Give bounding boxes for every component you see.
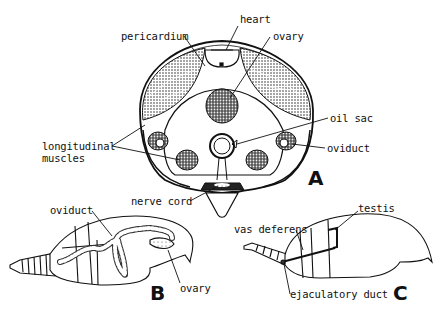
label-oviduct-b: oviduct bbox=[50, 205, 93, 216]
label-longitudinal: longitudinal bbox=[42, 141, 115, 152]
label-heart: heart bbox=[240, 14, 271, 25]
label-ovary-a: ovary bbox=[273, 31, 304, 42]
label-oil-sac: oil sac bbox=[330, 113, 373, 124]
label-pericardium: pericardium bbox=[121, 31, 188, 42]
label-ovary-b: ovary bbox=[180, 283, 211, 294]
right-dorsal-muscle bbox=[240, 48, 310, 120]
ventral-projection bbox=[206, 193, 238, 217]
panel-b-female bbox=[10, 216, 193, 285]
panel-a-cross-section bbox=[140, 41, 313, 217]
label-nerve-cord: nerve cord bbox=[131, 196, 192, 207]
label-oviduct-a: oviduct bbox=[327, 143, 370, 154]
label-muscles: muscles bbox=[42, 153, 85, 164]
panel-letter-a: A bbox=[308, 168, 323, 188]
left-dorsal-muscle bbox=[143, 48, 205, 120]
ovary-center bbox=[206, 89, 238, 123]
panel-letter-b: B bbox=[150, 283, 165, 303]
panel-letter-c: C bbox=[393, 283, 408, 303]
ovary-right bbox=[246, 150, 268, 170]
label-testis: testis bbox=[358, 203, 395, 214]
label-vas-deferens: vas deferens bbox=[234, 224, 307, 235]
label-ejaculatory-duct: ejaculatory duct bbox=[290, 289, 388, 300]
